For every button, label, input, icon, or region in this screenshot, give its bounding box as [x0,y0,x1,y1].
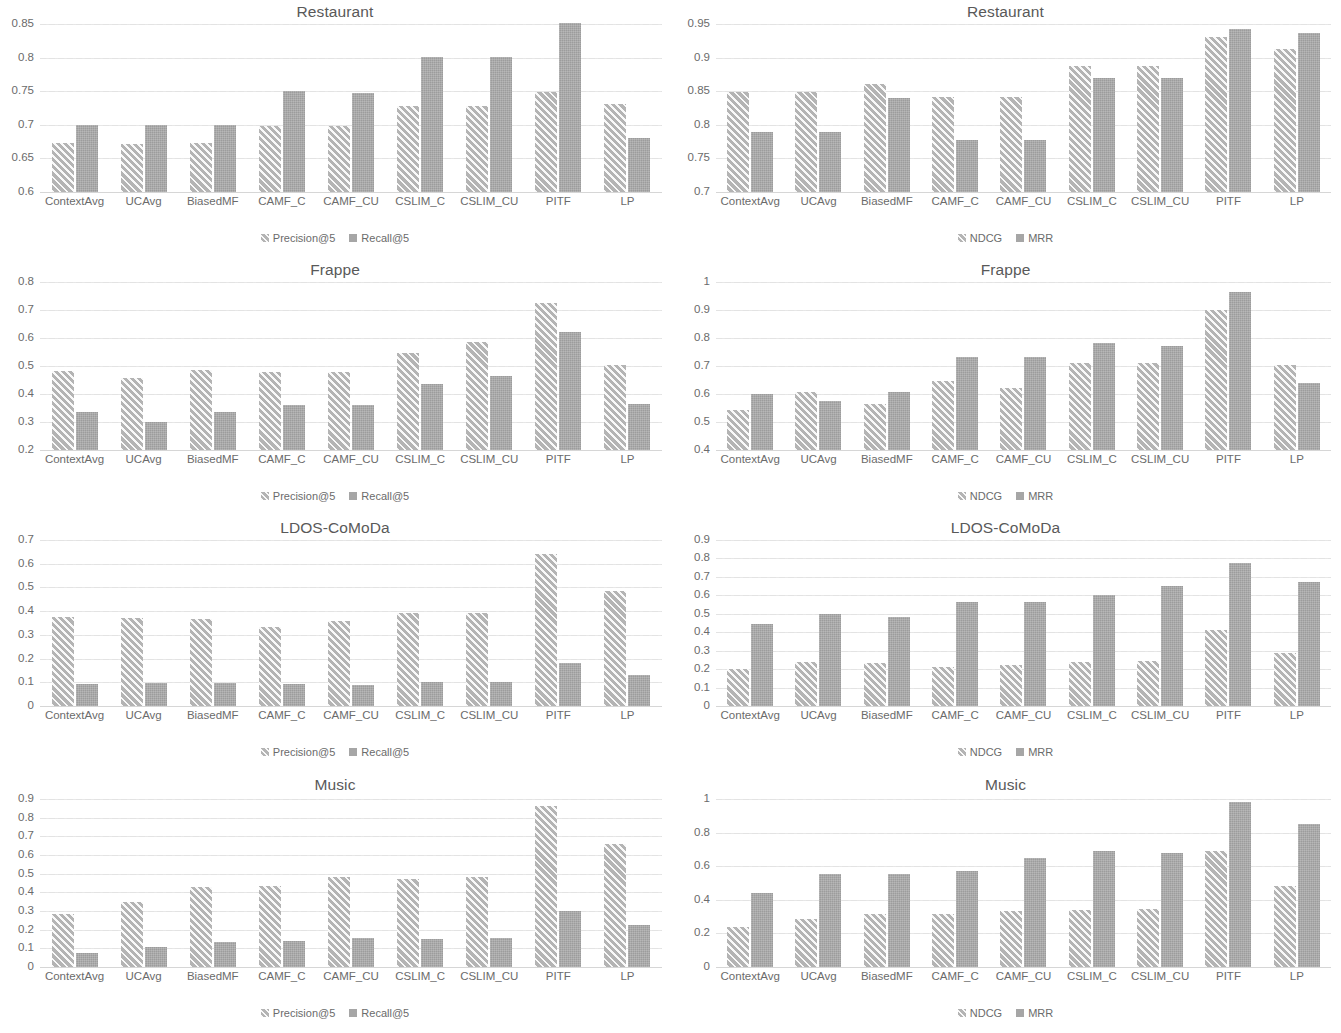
bar-series1[interactable] [1274,49,1296,192]
bar-series2[interactable] [1024,357,1046,450]
bar-series2[interactable] [888,874,910,967]
bar-series1[interactable] [190,619,212,706]
bar-series1[interactable] [328,126,350,192]
bar-series2[interactable] [421,384,443,450]
bar-series1[interactable] [1069,363,1091,450]
legend-item[interactable]: Precision@5 [261,232,336,244]
bar-series2[interactable] [145,947,167,967]
bar-series2[interactable] [352,93,374,192]
bar-series1[interactable] [1274,886,1296,967]
bar-series1[interactable] [1000,97,1022,192]
bar-series1[interactable] [328,621,350,706]
bar-series2[interactable] [1093,851,1115,967]
bar-series1[interactable] [328,372,350,450]
bar-series2[interactable] [1298,582,1320,706]
bar-series1[interactable] [1274,365,1296,450]
bar-series1[interactable] [397,106,419,192]
bar-series2[interactable] [421,57,443,192]
bar-series1[interactable] [1069,662,1091,706]
bar-series2[interactable] [76,953,98,967]
bar-series2[interactable] [214,683,236,706]
bar-series2[interactable] [1161,853,1183,967]
bar-series1[interactable] [864,663,886,706]
bar-series2[interactable] [956,602,978,706]
legend-item[interactable]: MRR [1016,232,1053,244]
bar-series2[interactable] [628,675,650,706]
bar-series2[interactable] [421,939,443,967]
bar-series1[interactable] [328,877,350,967]
bar-series1[interactable] [1205,310,1227,450]
bar-series1[interactable] [535,303,557,450]
bar-series2[interactable] [819,614,841,706]
bar-series2[interactable] [283,405,305,450]
bar-series2[interactable] [76,684,98,706]
bar-series1[interactable] [795,92,817,192]
bar-series2[interactable] [751,132,773,192]
bar-series1[interactable] [1205,851,1227,967]
bar-series2[interactable] [628,138,650,192]
bar-series1[interactable] [397,879,419,967]
legend-item[interactable]: NDCG [958,232,1002,244]
bar-series2[interactable] [214,125,236,192]
bar-series2[interactable] [888,392,910,450]
bar-series1[interactable] [52,617,74,706]
bar-series1[interactable] [1137,66,1159,192]
legend-item[interactable]: Precision@5 [261,490,336,502]
legend-item[interactable]: Precision@5 [261,1007,336,1019]
bar-series1[interactable] [190,370,212,450]
legend-item[interactable]: NDCG [958,1007,1002,1019]
bar-series1[interactable] [52,143,74,192]
bar-series1[interactable] [1137,909,1159,967]
bar-series1[interactable] [121,902,143,967]
bar-series2[interactable] [819,401,841,450]
bar-series1[interactable] [795,919,817,967]
bar-series2[interactable] [1161,78,1183,192]
bar-series1[interactable] [466,877,488,967]
legend-item[interactable]: Recall@5 [349,1007,409,1019]
bar-series2[interactable] [888,98,910,192]
legend-item[interactable]: Recall@5 [349,746,409,758]
bar-series2[interactable] [1298,824,1320,967]
bar-series2[interactable] [559,911,581,967]
bar-series2[interactable] [76,125,98,192]
bar-series1[interactable] [121,618,143,706]
bar-series2[interactable] [76,412,98,450]
legend-item[interactable]: MRR [1016,746,1053,758]
bar-series1[interactable] [190,143,212,192]
legend-item[interactable]: Recall@5 [349,490,409,502]
bar-series2[interactable] [352,405,374,450]
bar-series2[interactable] [559,663,581,706]
bar-series1[interactable] [466,613,488,706]
bar-series2[interactable] [1229,802,1251,967]
bar-series1[interactable] [864,914,886,967]
bar-series1[interactable] [1000,388,1022,450]
bar-series1[interactable] [190,887,212,967]
bar-series2[interactable] [490,57,512,192]
legend-item[interactable]: Recall@5 [349,232,409,244]
bar-series2[interactable] [628,925,650,967]
bar-series2[interactable] [421,682,443,706]
bar-series2[interactable] [214,412,236,450]
bar-series1[interactable] [932,667,954,706]
bar-series1[interactable] [604,104,626,192]
bar-series1[interactable] [52,371,74,450]
bar-series2[interactable] [1229,292,1251,450]
bar-series2[interactable] [1024,858,1046,967]
bar-series1[interactable] [1205,37,1227,192]
bar-series2[interactable] [1024,602,1046,706]
bar-series2[interactable] [283,91,305,192]
legend-item[interactable]: NDCG [958,490,1002,502]
bar-series1[interactable] [932,914,954,967]
bar-series1[interactable] [397,353,419,450]
bar-series1[interactable] [795,392,817,450]
bar-series2[interactable] [751,394,773,450]
bar-series1[interactable] [727,927,749,967]
bar-series1[interactable] [604,844,626,967]
bar-series1[interactable] [1274,653,1296,706]
bar-series2[interactable] [490,682,512,706]
bar-series1[interactable] [932,381,954,450]
bar-series2[interactable] [1229,563,1251,706]
bar-series2[interactable] [145,422,167,450]
bar-series1[interactable] [1137,661,1159,706]
bar-series2[interactable] [1229,29,1251,192]
